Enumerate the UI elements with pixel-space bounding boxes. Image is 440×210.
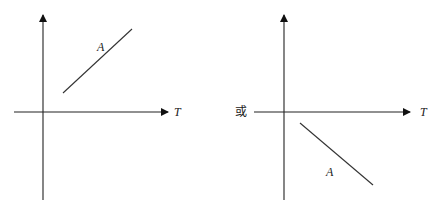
right-panel: T A (254, 15, 428, 200)
left-t-axis-label: T (174, 105, 182, 119)
left-line-a (63, 29, 132, 93)
left-line-a-label: A (96, 40, 105, 54)
right-line-a (300, 123, 373, 185)
right-line-a-label: A (325, 165, 334, 179)
left-panel: T A (14, 15, 182, 200)
right-t-axis-label: T (420, 105, 428, 119)
connector-text: 或 (235, 105, 247, 119)
diagram-canvas: T A 或 T A (0, 0, 440, 210)
